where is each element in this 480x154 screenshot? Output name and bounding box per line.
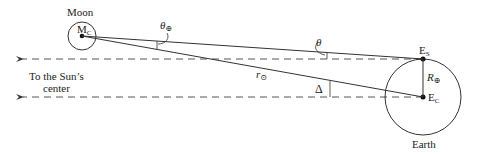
delta-label: Δ xyxy=(315,82,323,96)
earth-surface-label: ES xyxy=(419,44,430,58)
theta-sun-leader xyxy=(158,33,168,44)
moon-earth-parallax-diagram: Moon MC To the Sun’s center θ⊕ θ Δ r⊙ ES… xyxy=(0,0,480,154)
theta-sun-label: θ⊕ xyxy=(160,19,172,33)
moon-label: Moon xyxy=(67,6,94,18)
earth-label: Earth xyxy=(412,138,436,150)
r-sun-label: r⊙ xyxy=(256,68,267,82)
theta-label: θ xyxy=(316,36,322,48)
sun-direction-label-line2: center xyxy=(43,82,70,94)
moon-to-earth-center-line xyxy=(82,36,423,97)
moon-center-label: MC xyxy=(77,23,92,37)
moon-to-earth-surface-line xyxy=(82,36,423,59)
earth-center-label: EC xyxy=(428,91,440,105)
earth-radius-label: R⊕ xyxy=(426,71,440,85)
sun-direction-label-line1: To the Sun’s xyxy=(29,70,84,82)
